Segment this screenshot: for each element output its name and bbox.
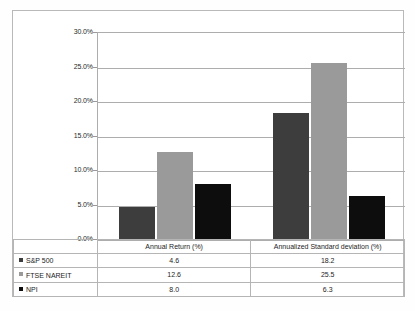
table-body: S&P 5004.618.2FTSE NAREIT12.625.5NPI8.06…	[14, 254, 405, 297]
y-axis-tick-mark	[93, 67, 97, 68]
gridline	[98, 137, 405, 138]
legend-item-npi: NPI	[14, 282, 98, 296]
table-cell-value: 6.3	[251, 282, 405, 296]
y-axis-tick-mark	[93, 136, 97, 137]
table-header: Annual Return (%) Annualized Standard de…	[14, 240, 405, 254]
y-axis-tick-mark	[93, 170, 97, 171]
column-header-annualized-std-dev: Annualized Standard deviation (%)	[251, 240, 405, 254]
legend-swatch-icon	[19, 287, 23, 291]
y-axis-tick-label: 15.0%	[49, 132, 93, 139]
y-axis-tick-label: 25.0%	[49, 63, 93, 70]
table-row: FTSE NAREIT12.625.5	[14, 268, 405, 282]
legend-label: FTSE NAREIT	[26, 272, 72, 279]
bar-ftse-nareit-annualized-std-dev	[311, 63, 347, 239]
gridline	[98, 102, 405, 103]
y-axis-tick-label: 20.0%	[49, 97, 93, 104]
data-table: Annual Return (%) Annualized Standard de…	[13, 239, 405, 297]
screenshot-root: 30.0%25.0%20.0%15.0%10.0%5.0%0.0% Annual…	[0, 0, 415, 311]
table-corner-cell	[14, 240, 98, 254]
y-axis-tick-mark	[93, 101, 97, 102]
bar-s-p-500-annual-return	[119, 207, 155, 239]
y-axis-tick-mark	[93, 32, 97, 33]
column-header-annual-return: Annual Return (%)	[97, 240, 251, 254]
y-axis-tick-label: 5.0%	[49, 201, 93, 208]
bar-ftse-nareit-annual-return	[157, 152, 193, 239]
y-axis-tick-label: 10.0%	[49, 166, 93, 173]
table-cell-value: 25.5	[251, 268, 405, 282]
table-cell-value: 4.6	[97, 254, 251, 268]
chart-frame: 30.0%25.0%20.0%15.0%10.0%5.0%0.0% Annual…	[12, 10, 404, 297]
y-axis-tick-mark	[93, 239, 97, 240]
legend-label: S&P 500	[26, 257, 54, 264]
y-axis-tick-mark	[93, 205, 97, 206]
legend-swatch-icon	[19, 258, 23, 262]
table-row: S&P 5004.618.2	[14, 254, 405, 268]
bar-s-p-500-annualized-std-dev	[273, 113, 309, 239]
legend-item-s-p-500: S&P 500	[14, 254, 98, 268]
plot-area	[97, 32, 405, 239]
table-cell-value: 8.0	[97, 282, 251, 296]
bar-npi-annualized-std-dev	[349, 196, 385, 239]
gridline	[98, 171, 405, 172]
table-cell-value: 18.2	[251, 254, 405, 268]
legend-item-ftse-nareit: FTSE NAREIT	[14, 268, 98, 282]
legend-swatch-icon	[19, 272, 23, 276]
gridline	[98, 68, 405, 69]
y-axis: 30.0%25.0%20.0%15.0%10.0%5.0%0.0%	[47, 32, 93, 239]
table-row: NPI8.06.3	[14, 282, 405, 296]
table-cell-value: 12.6	[97, 268, 251, 282]
bar-npi-annual-return	[195, 184, 231, 239]
legend-label: NPI	[26, 286, 38, 293]
y-axis-tick-label: 30.0%	[49, 28, 93, 35]
table-header-row: Annual Return (%) Annualized Standard de…	[14, 240, 405, 254]
